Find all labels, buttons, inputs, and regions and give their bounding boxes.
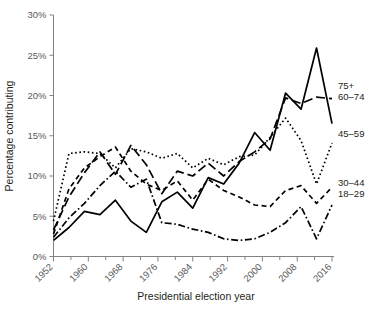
series-line-45-59	[54, 118, 333, 221]
series-labels-group: 75+60–7445–5930–4418–29	[338, 80, 364, 199]
x-tick-label: 1952	[32, 261, 55, 284]
series-line-60-74	[54, 97, 333, 230]
y-tick-label: 25%	[27, 50, 47, 61]
x-tick-label: 2016	[311, 261, 334, 284]
x-axis-title: Presidential election year	[137, 290, 255, 302]
series-line-18-29	[54, 171, 333, 240]
y-tick-label: 30%	[27, 9, 47, 20]
series-label-18-29: 18–29	[338, 188, 364, 199]
series-label-60-74: 60–74	[338, 91, 364, 102]
x-tick-label: 1968	[102, 261, 125, 284]
y-tick-label: 10%	[27, 170, 47, 181]
y-axis-ticks: 0%5%10%15%20%25%30%	[27, 9, 53, 262]
series-line-30-44	[54, 147, 333, 234]
x-tick-label: 1992	[206, 261, 229, 284]
series-label-45-59: 45–59	[338, 128, 364, 139]
x-tick-label: 1960	[67, 261, 90, 284]
y-tick-label: 15%	[27, 130, 47, 141]
series-label-75plus: 75+	[338, 80, 355, 91]
x-tick-label: 1984	[171, 261, 194, 284]
x-axis-ticks: 195219601968197619841992200020082016	[32, 257, 333, 284]
series-paths-group	[54, 48, 333, 240]
y-tick-label: 0%	[33, 251, 47, 262]
series-line-75plus	[54, 48, 333, 240]
y-axis-title: Percentage contributing	[3, 80, 15, 191]
series-label-30-44: 30–44	[338, 177, 364, 188]
x-tick-label: 2008	[276, 261, 299, 284]
y-tick-label: 20%	[27, 90, 47, 101]
x-tick-label: 2000	[241, 261, 264, 284]
y-tick-label: 5%	[33, 211, 47, 222]
line-chart: 0%5%10%15%20%25%30% 19521960196819761984…	[0, 0, 390, 312]
x-tick-label: 1976	[137, 261, 160, 284]
chart-figure: 0%5%10%15%20%25%30% 19521960196819761984…	[0, 0, 390, 312]
